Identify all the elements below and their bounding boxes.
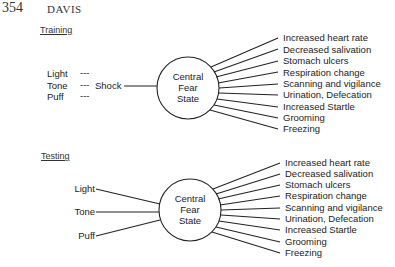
testing-panel: Light Tone Puff Central Fear State Incre…: [74, 157, 382, 258]
training-stimulus-puff: Puff: [47, 91, 64, 102]
testing-response: Scanning and vigilance: [285, 202, 383, 213]
training-response: Urination, Defecation: [283, 89, 372, 100]
training-panel: Light Tone Puff --- --- --- Shock Centra…: [47, 32, 381, 134]
testing-responses: Increased heart rate Decreased salivatio…: [285, 157, 383, 258]
testing-response-lines: [212, 163, 280, 253]
training-center-line-2: Fear: [178, 82, 198, 93]
training-responses: Increased heart rate Decreased salivatio…: [283, 32, 381, 134]
training-dash-light: ---: [80, 67, 90, 78]
training-center-line-1: Central: [173, 71, 204, 82]
testing-stimulus-light: Light: [74, 183, 95, 194]
training-dash-tone: ---: [80, 79, 90, 90]
training-response: Freezing: [283, 123, 320, 134]
testing-center-line-3: State: [179, 215, 201, 226]
testing-stimulus-puff: Puff: [78, 230, 95, 241]
testing-stimulus-lines: [96, 189, 160, 236]
testing-response: Freezing: [285, 247, 322, 258]
testing-center-line-1: Central: [175, 193, 206, 204]
training-response: Grooming: [283, 112, 325, 123]
testing-response: Respiration change: [285, 190, 367, 201]
training-stimuli: Light Tone Puff --- --- --- Shock: [47, 67, 122, 102]
training-response: Respiration change: [283, 67, 365, 78]
testing-response: Stomach ulcers: [285, 179, 351, 190]
testing-response: Increased heart rate: [285, 157, 370, 168]
training-response: Increased Startle: [283, 101, 355, 112]
training-dash-puff: ---: [80, 90, 90, 101]
training-response: Scanning and vigilance: [283, 78, 381, 89]
testing-stimuli: Light Tone Puff: [74, 183, 95, 241]
training-response: Stomach ulcers: [283, 55, 349, 66]
training-response: Increased heart rate: [283, 32, 368, 43]
testing-response: Increased Startle: [285, 224, 357, 235]
training-response: Decreased salivation: [283, 44, 371, 55]
testing-response: Decreased salivation: [285, 168, 373, 179]
training-response-lines: [210, 38, 278, 129]
training-center-line-3: State: [177, 93, 199, 104]
testing-response: Grooming: [285, 236, 327, 247]
fear-diagram: Light Tone Puff --- --- --- Shock Centra…: [0, 0, 395, 267]
testing-center-line-2: Fear: [180, 204, 200, 215]
training-stimulus-tone: Tone: [47, 80, 68, 91]
training-stimulus-light: Light: [47, 68, 68, 79]
testing-response: Urination, Defecation: [285, 213, 374, 224]
training-shock-label: Shock: [95, 80, 122, 91]
testing-stimulus-tone: Tone: [74, 206, 95, 217]
